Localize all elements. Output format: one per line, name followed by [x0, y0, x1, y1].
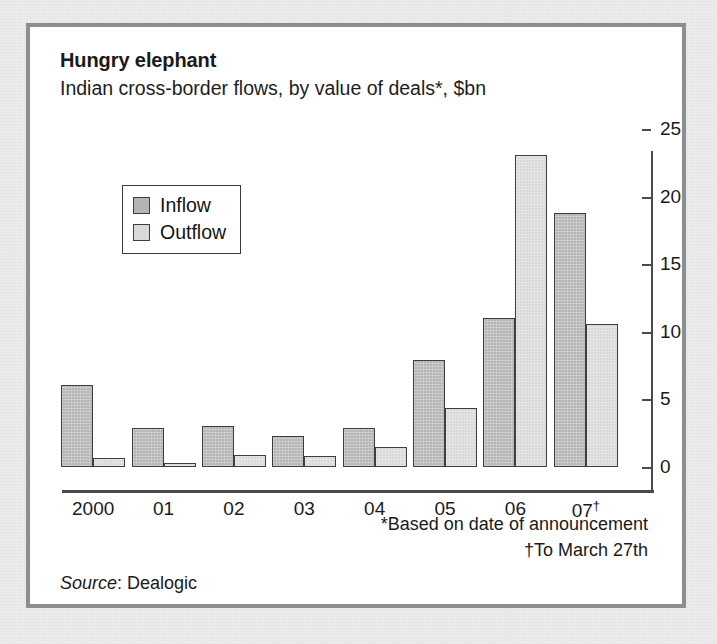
y-axis-tick — [642, 264, 651, 266]
legend-label-inflow: Inflow — [160, 194, 211, 217]
y-axis-tick-label: 25 — [660, 118, 681, 140]
x-axis-line — [62, 490, 654, 493]
legend-label-outflow: Outflow — [160, 221, 226, 244]
y-axis-tick-label: 10 — [660, 321, 681, 343]
bar-group — [554, 129, 618, 467]
y-axis-tick — [642, 129, 651, 131]
chart-legend: Inflow Outflow — [122, 185, 241, 254]
x-axis-tick-label: 01 — [124, 498, 204, 520]
bar-group — [61, 129, 125, 467]
bar-group — [202, 129, 266, 467]
y-axis-tick — [642, 197, 651, 199]
outflow-bar — [93, 458, 125, 467]
inflow-bar — [202, 426, 234, 467]
bar-group — [132, 129, 196, 467]
footnote-dagger: †To March 27th — [381, 537, 648, 563]
outflow-bar — [164, 463, 196, 467]
inflow-bar — [413, 360, 445, 467]
legend-item-outflow: Outflow — [133, 219, 226, 246]
bar-group — [272, 129, 336, 467]
x-axis-tick-label: 03 — [264, 498, 344, 520]
chart-panel: Hungry elephant Indian cross-border flow… — [26, 23, 686, 608]
footnote-asterisk: *Based on date of announcement — [381, 511, 648, 537]
source-label: Source — [60, 573, 117, 593]
y-axis-line — [651, 151, 653, 492]
bar-group — [343, 129, 407, 467]
outflow-bar — [515, 155, 547, 467]
x-axis-tick-label: 2000 — [53, 498, 133, 520]
inflow-swatch-icon — [133, 197, 150, 214]
outflow-bar — [375, 447, 407, 467]
chart-title: Hungry elephant — [60, 49, 216, 72]
inflow-bar — [132, 428, 164, 467]
chart-subtitle: Indian cross-border flows, by value of d… — [60, 77, 486, 100]
chart-footnotes: *Based on date of announcement †To March… — [381, 511, 648, 563]
plot-area — [62, 129, 625, 467]
bar-group — [413, 129, 477, 467]
bars-layer — [62, 129, 625, 467]
bar-group — [483, 129, 547, 467]
inflow-bar — [343, 428, 375, 467]
y-axis-tick-label: 15 — [660, 253, 681, 275]
inflow-bar — [554, 213, 586, 467]
source-line: Source: Dealogic — [60, 573, 197, 594]
inflow-bar — [272, 436, 304, 467]
inflow-bar — [483, 318, 515, 467]
x-axis-tick-label: 02 — [194, 498, 274, 520]
source-separator: : — [117, 573, 127, 593]
y-axis-tick — [642, 467, 651, 469]
y-axis-tick-label: 20 — [660, 186, 681, 208]
outflow-bar — [304, 456, 336, 467]
y-axis-tick — [642, 332, 651, 334]
y-axis-tick — [642, 399, 651, 401]
inflow-bar — [61, 385, 93, 467]
outflow-bar — [234, 455, 266, 467]
legend-item-inflow: Inflow — [133, 192, 226, 219]
outflow-swatch-icon — [133, 224, 150, 241]
y-axis-tick-label: 5 — [660, 388, 671, 410]
source-value: Dealogic — [127, 573, 197, 593]
y-axis-tick-label: 0 — [660, 456, 671, 478]
outflow-bar — [445, 408, 477, 467]
outflow-bar — [586, 324, 618, 467]
